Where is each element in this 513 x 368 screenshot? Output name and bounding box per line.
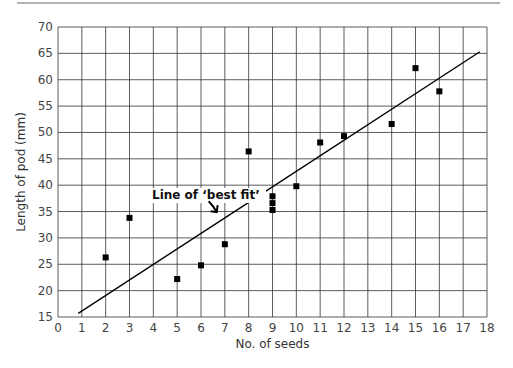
y-tick-label: 25 [38, 257, 53, 271]
grid [58, 27, 487, 317]
y-tick-label: 35 [38, 205, 53, 219]
x-axis-label: No. of seeds [235, 337, 309, 351]
x-tick-label: 18 [479, 321, 494, 335]
x-tick-label: 5 [173, 321, 181, 335]
x-tick-label: 13 [360, 321, 375, 335]
best-fit-annotation: Line of ‘best fit’ [152, 188, 260, 202]
data-point [436, 88, 442, 94]
x-tick-label: 1 [78, 321, 86, 335]
x-tick-label: 4 [150, 321, 158, 335]
data-point [174, 276, 180, 282]
y-tick-label: 65 [38, 46, 53, 60]
best-fit-line [78, 52, 480, 314]
x-tick-label: 6 [197, 321, 205, 335]
y-tick-label: 30 [38, 231, 53, 245]
x-tick-label: 2 [102, 321, 110, 335]
x-tick-label: 17 [456, 321, 471, 335]
data-point [270, 200, 276, 206]
x-tick-label: 11 [313, 321, 328, 335]
y-tick-label: 70 [38, 20, 53, 34]
y-tick-label: 60 [38, 73, 53, 87]
data-point [413, 65, 419, 71]
data-point [198, 262, 204, 268]
x-tick-label: 10 [289, 321, 304, 335]
data-point [246, 148, 252, 154]
x-tick-label: 16 [432, 321, 447, 335]
data-point [127, 215, 133, 221]
data-point [270, 207, 276, 213]
scatter-chart: 0123456789101112131415161718 15202530354… [0, 0, 513, 368]
x-tick-label: 3 [126, 321, 134, 335]
y-tick-label: 45 [38, 152, 53, 166]
x-tick-label: 9 [269, 321, 277, 335]
y-tick-label: 50 [38, 125, 53, 139]
y-tick-labels: 152025303540455055606570 [38, 20, 53, 324]
data-point [222, 241, 228, 247]
y-tick-label: 15 [38, 310, 53, 324]
data-point [341, 133, 347, 139]
y-tick-label: 40 [38, 178, 53, 192]
x-tick-label: 12 [336, 321, 351, 335]
x-tick-label: 0 [54, 321, 62, 335]
y-axis-label: Length of pod (mm) [14, 112, 28, 232]
y-tick-label: 55 [38, 99, 53, 113]
data-point [317, 139, 323, 145]
x-tick-label: 7 [221, 321, 229, 335]
y-tick-label: 20 [38, 284, 53, 298]
data-point [293, 183, 299, 189]
x-tick-labels: 0123456789101112131415161718 [54, 321, 494, 335]
data-point [270, 193, 276, 199]
data-point [389, 121, 395, 127]
x-tick-label: 15 [408, 321, 423, 335]
x-tick-label: 14 [384, 321, 399, 335]
x-tick-label: 8 [245, 321, 253, 335]
data-point [103, 254, 109, 260]
